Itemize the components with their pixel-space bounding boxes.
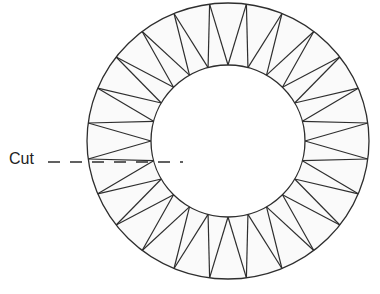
cut-label: Cut xyxy=(9,150,34,168)
ring-diagram xyxy=(0,0,380,294)
inner-circle xyxy=(151,65,305,217)
ring xyxy=(87,3,369,279)
